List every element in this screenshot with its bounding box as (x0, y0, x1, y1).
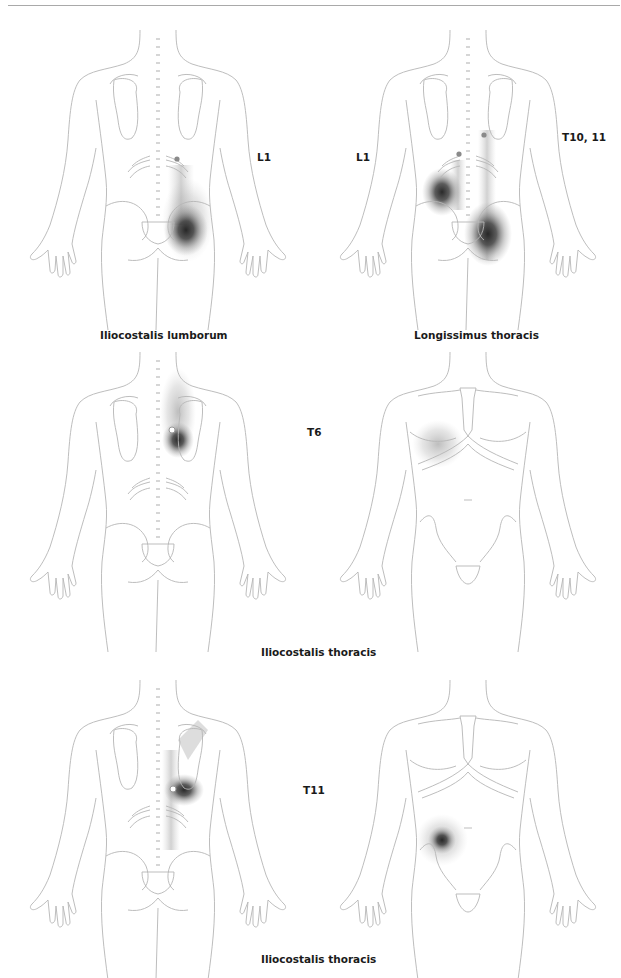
level-label: T6 (307, 426, 321, 438)
referred-pain-band (178, 720, 208, 760)
trigger-point-icon (170, 786, 176, 792)
posterior-body-diagram (28, 30, 288, 320)
figure-caption: Iliocostalis thoracis (261, 646, 376, 658)
figure-iliocostalis-thoracis-t6-anterior (338, 352, 598, 642)
figure-caption: Iliocostalis thoracis (261, 953, 376, 965)
figure-iliocostalis-thoracis-t6-posterior (28, 352, 288, 642)
level-label: L1 (257, 151, 271, 163)
figure-caption: Longissimus thoracis (414, 329, 539, 341)
referred-pain-core (428, 826, 456, 854)
figure-iliocostalis-thoracis-t11-posterior (28, 680, 288, 970)
trigger-point-icon (481, 132, 486, 137)
level-label: T10, 11 (562, 131, 606, 143)
anterior-body-diagram (338, 352, 598, 642)
figure-iliocostalis-thoracis-t11-anterior (338, 680, 598, 970)
trigger-point-icon (456, 151, 461, 156)
trigger-point-icon (174, 156, 179, 161)
trigger-point-icon (169, 427, 175, 433)
figure-iliocostalis-lumborum (28, 30, 288, 320)
level-label: L1 (356, 151, 370, 163)
anterior-body-diagram (338, 680, 598, 970)
posterior-body-diagram (338, 30, 598, 320)
figure-longissimus-thoracis (338, 30, 598, 320)
referred-pain-zone (412, 420, 464, 468)
posterior-body-diagram (28, 352, 288, 642)
figure-caption: Iliocostalis lumborum (100, 329, 228, 341)
referred-pain-core (464, 202, 512, 266)
referred-pain-core (164, 204, 208, 256)
level-label: T11 (303, 784, 325, 796)
posterior-body-diagram (28, 680, 288, 970)
header-rule (8, 5, 620, 6)
